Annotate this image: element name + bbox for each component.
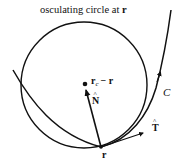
osculating-circle-diagram: osculating circle at r rc− r N ^ T ^ r C	[0, 0, 186, 160]
curve-direction-arrow-icon	[157, 72, 161, 82]
title-label: osculating circle at r	[40, 4, 127, 15]
point-r-label: r	[102, 149, 107, 160]
curve-C-label: C	[163, 86, 171, 98]
center-point	[83, 82, 88, 87]
center-label: rc− r	[91, 75, 114, 88]
